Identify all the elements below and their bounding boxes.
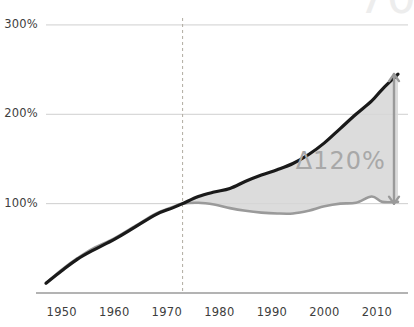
x-tick-label-2000: 2000 xyxy=(300,305,348,319)
series-line-hourly-compensation xyxy=(46,196,398,283)
y-tick-label-200: 200% xyxy=(4,106,38,120)
x-tick-label-1950: 1950 xyxy=(38,305,86,319)
y-tick-label-100: 100% xyxy=(4,196,38,210)
chart-container: 70 100%200%300% 195019601970198019902000… xyxy=(0,0,414,327)
delta-annotation-label: Δ120% xyxy=(296,147,386,175)
y-tick-label-300: 300% xyxy=(4,17,38,31)
x-tick-label-1990: 1990 xyxy=(248,305,296,319)
x-tick-label-2010: 2010 xyxy=(353,305,401,319)
x-tick-label-1960: 1960 xyxy=(90,305,138,319)
gap-shaded-region xyxy=(46,74,398,283)
x-tick-label-1970: 1970 xyxy=(143,305,191,319)
x-tick-label-1980: 1980 xyxy=(195,305,243,319)
